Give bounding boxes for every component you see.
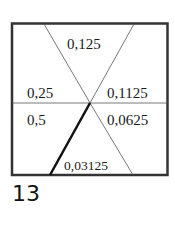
label-bottom: 0,03125 bbox=[64, 158, 108, 173]
figure-number: 13 bbox=[12, 181, 40, 206]
label-upper-right: 0,1125 bbox=[107, 85, 148, 101]
label-lower-left: 0,5 bbox=[27, 112, 46, 128]
label-upper-left: 0,25 bbox=[27, 85, 53, 101]
label-top: 0,125 bbox=[67, 36, 101, 52]
label-lower-right: 0,0625 bbox=[107, 112, 148, 128]
